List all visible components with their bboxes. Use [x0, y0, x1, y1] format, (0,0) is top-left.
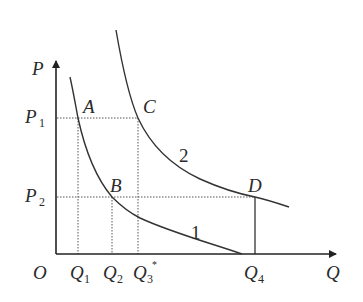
- svg-text:1: 1: [84, 272, 90, 286]
- quantity-label-q4: Q 4: [244, 262, 264, 286]
- point-label-a: A: [81, 96, 95, 117]
- demand-curve-1: [70, 77, 242, 254]
- svg-text:3: 3: [147, 272, 153, 286]
- svg-text:2: 2: [117, 272, 123, 286]
- svg-text:P: P: [24, 106, 37, 127]
- svg-text:P: P: [24, 185, 37, 206]
- point-label-d: D: [247, 175, 262, 196]
- guide-lines: [57, 118, 255, 254]
- svg-text:2: 2: [39, 195, 45, 209]
- quantity-label-q1: Q 1: [70, 262, 90, 286]
- quantity-label-q3: Q 3 *: [133, 259, 157, 286]
- point-label-c: C: [143, 96, 156, 117]
- svg-text:Q: Q: [103, 262, 117, 283]
- svg-text:*: *: [152, 259, 157, 270]
- svg-text:Q: Q: [244, 262, 258, 283]
- curve-label-1: 1: [191, 222, 201, 243]
- point-label-b: B: [110, 175, 122, 196]
- svg-text:1: 1: [39, 116, 45, 130]
- price-label-p1: P 1: [24, 106, 45, 130]
- demand-curve-diagram: P Q O P 1 P 2 Q 1 Q 2 Q 3 * Q 4 A B C D …: [0, 0, 363, 302]
- origin-label: O: [33, 262, 47, 283]
- price-label-p2: P 2: [24, 185, 45, 209]
- y-axis-label: P: [31, 58, 44, 79]
- quantity-label-q2: Q 2: [103, 262, 123, 286]
- svg-text:Q: Q: [133, 262, 147, 283]
- svg-text:4: 4: [258, 272, 264, 286]
- curve-label-2: 2: [179, 145, 189, 166]
- svg-text:Q: Q: [70, 262, 84, 283]
- x-axis-label: Q: [326, 262, 340, 283]
- demand-curve-2: [116, 30, 289, 207]
